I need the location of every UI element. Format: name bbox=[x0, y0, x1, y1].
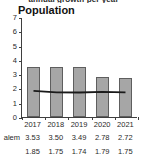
x-axis-labels: 20172018201920202021 bbox=[21, 120, 137, 129]
table-cell: 1.75 bbox=[114, 147, 137, 157]
x-axis-label: 2020 bbox=[91, 120, 114, 129]
x-axis-label: 2019 bbox=[67, 120, 90, 129]
x-axis-tick-mark bbox=[138, 117, 139, 120]
table-cell: 1.85 bbox=[21, 147, 44, 157]
table-cell: 2.72 bbox=[114, 133, 137, 143]
chart-title: Population bbox=[18, 4, 128, 17]
table-cell: 3.50 bbox=[44, 133, 67, 143]
y-axis-tick-label: 4 bbox=[4, 57, 17, 64]
table-cell: 3.53 bbox=[21, 133, 44, 143]
plot-area: 76543210 bbox=[21, 18, 137, 118]
y-axis-tick-label: 0 bbox=[4, 114, 17, 121]
table-cell: 2.78 bbox=[91, 133, 114, 143]
y-axis-tick-label: 5 bbox=[4, 43, 17, 50]
y-axis-tick-label: 7 bbox=[4, 14, 17, 21]
table-cell: 1.79 bbox=[91, 147, 114, 157]
x-axis-label: 2021 bbox=[114, 120, 137, 129]
y-axis-tick-label: 1 bbox=[4, 100, 17, 107]
row-label-1: alem bbox=[0, 133, 21, 143]
table-cell: 3.49 bbox=[67, 133, 90, 143]
line-series bbox=[22, 18, 137, 117]
x-axis-label: 2017 bbox=[21, 120, 44, 129]
y-axis-tick-label: 3 bbox=[4, 71, 17, 78]
table-row: 1.851.751.741.791.75 bbox=[0, 146, 147, 158]
y-axis-tick-label: 2 bbox=[4, 85, 17, 92]
x-axis-label: 2018 bbox=[44, 120, 67, 129]
table-cell: 1.75 bbox=[44, 147, 67, 157]
y-axis-tick-label: 6 bbox=[4, 28, 17, 35]
trend-line bbox=[33, 91, 125, 93]
row-values-2: 1.851.751.741.791.75 bbox=[21, 147, 137, 157]
table-row: alem 3.533.503.492.782.72 bbox=[0, 132, 147, 144]
cropped-header-text: annual growth per year bbox=[0, 0, 147, 3]
row-values-1: 3.533.503.492.782.72 bbox=[21, 133, 137, 143]
table-cell: 1.74 bbox=[67, 147, 90, 157]
chart-panel: annual growth per year Population 765432… bbox=[0, 0, 147, 161]
